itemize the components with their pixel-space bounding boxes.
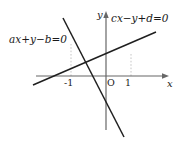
x-tick-label-1: 1: [125, 78, 131, 88]
origin-label: O: [107, 78, 115, 88]
math-figure: ax+y−b=0 cx−y+d=0 -1 O 1 x y: [0, 0, 185, 142]
equation-label-line2: cx−y+d=0: [111, 13, 169, 24]
equation-label-line1: ax+y−b=0: [9, 34, 67, 45]
x-axis-label: x: [167, 79, 173, 89]
x-tick-label-neg1: -1: [64, 78, 73, 88]
y-axis-arrowhead: [103, 11, 108, 18]
y-axis-label: y: [97, 10, 103, 20]
